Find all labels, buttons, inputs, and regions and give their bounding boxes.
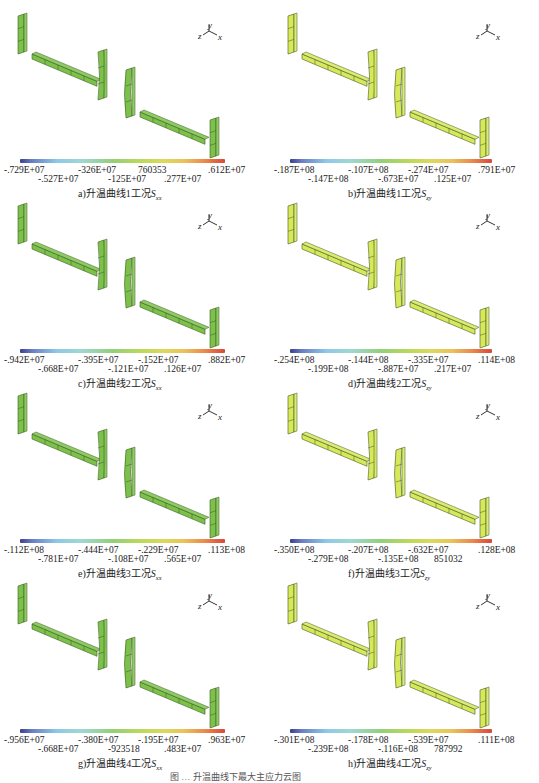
colorbar-tick-label: -.147E+08: [308, 174, 348, 184]
panel-d: y z x -.254E+08-.144E+08-.335E+07.114E+0…: [270, 190, 539, 380]
beam-member: [410, 490, 479, 524]
beam-member: [302, 622, 371, 656]
beam-member: [410, 300, 479, 334]
column-member: [395, 637, 406, 688]
beam-member: [140, 490, 209, 524]
fea-model-render: [0, 0, 269, 160]
column-member: [395, 67, 406, 118]
fea-model-render: [270, 0, 539, 160]
column-member: [98, 619, 107, 670]
colorbar-tick-label: -.121E+07: [108, 364, 148, 374]
beam-member: [32, 52, 101, 86]
colorbar-tick-label: -.116E+08: [378, 744, 418, 754]
column-member: [125, 447, 136, 498]
colorbar-tick-label: .113E+08: [208, 545, 245, 555]
column-member: [98, 49, 107, 100]
colorbar-tick-label: -.673E+07: [378, 174, 418, 184]
column-member: [480, 687, 489, 728]
column-member: [368, 49, 377, 100]
column-member: [210, 117, 219, 158]
column-member: [18, 583, 27, 624]
colorbar-tick-label: .791E+07: [478, 165, 515, 175]
column-member: [98, 429, 107, 480]
colorbar-tick-label: .114E+08: [478, 355, 515, 365]
colorbar-tick-label: -.668E+07: [38, 744, 78, 754]
column-member: [125, 637, 136, 688]
beam-member: [140, 680, 209, 714]
beam-member: [32, 242, 101, 276]
colorbar-tick-label: -.135E+08: [378, 554, 418, 564]
colorbar-tick-label: 787992: [434, 744, 463, 754]
colorbar-tick-label: -.781E+07: [38, 554, 78, 564]
panel-g: y z x -.956E+07-.380E+07-.195E+07.963E+0…: [0, 570, 269, 760]
colorbar-tick-label: .565E+07: [164, 554, 201, 564]
colorbar-tick-label: .217E+07: [434, 364, 471, 374]
fea-model-render: [0, 380, 269, 540]
column-member: [395, 257, 406, 308]
colorbar-tick-label: -.279E+08: [308, 554, 348, 564]
colorbar-tick-label: .612E+07: [208, 165, 245, 175]
panel-e: y z x -.112E+08-.444E+07-.229E+07.113E+0…: [0, 380, 269, 570]
panel-c: y z x -.942E+07-.395E+07-.152E+07.882E+0…: [0, 190, 269, 380]
colorbar-tick-label: .882E+07: [208, 355, 245, 365]
beam-member: [410, 110, 479, 144]
colorbar: [20, 729, 225, 733]
beam-member: [140, 110, 209, 144]
column-member: [368, 239, 377, 290]
colorbar: [290, 539, 492, 543]
colorbar-tick-label: .126E+07: [164, 364, 201, 374]
column-member: [288, 393, 297, 434]
column-member: [18, 393, 27, 434]
colorbar-tick-label: 851032: [434, 554, 463, 564]
column-member: [288, 203, 297, 244]
column-member: [395, 447, 406, 498]
beam-member: [410, 680, 479, 714]
fea-model-render: [0, 570, 269, 730]
column-member: [288, 13, 297, 54]
panel-a: y z x -.729E+07-326E+07760353.612E+07-.5…: [0, 0, 269, 190]
column-member: [18, 203, 27, 244]
panel-b: y z x -.187E+08-.107E+08-.274E+07.791E+0…: [270, 0, 539, 190]
colorbar-tick-label: -.239E+08: [308, 744, 348, 754]
fea-model-render: [270, 190, 539, 350]
beam-member: [32, 432, 101, 466]
colorbar: [20, 539, 225, 543]
colorbar: [290, 159, 492, 163]
fea-model-render: [270, 570, 539, 730]
column-member: [18, 13, 27, 54]
panel-h: y z x -.301E+08-.178E+08-.539E+07.111E+0…: [270, 570, 539, 760]
colorbar: [20, 349, 225, 353]
colorbar-tick-label: .277E+07: [164, 174, 201, 184]
figure-caption: 图 … 升温曲线下最大主应力云图: [170, 770, 301, 783]
beam-member: [302, 242, 371, 276]
column-member: [210, 307, 219, 348]
beam-member: [140, 300, 209, 334]
colorbar: [290, 729, 492, 733]
column-member: [368, 619, 377, 670]
column-member: [368, 429, 377, 480]
column-member: [125, 67, 136, 118]
colorbar-tick-label: .111E+08: [478, 735, 515, 745]
colorbar-tick-label: .125E+07: [434, 174, 471, 184]
colorbar-tick-label: -.527E+07: [38, 174, 78, 184]
colorbar-tick-label: .483E+07: [164, 744, 201, 754]
colorbar: [20, 159, 225, 163]
column-member: [210, 497, 219, 538]
colorbar-tick-label: -923518: [108, 744, 140, 754]
colorbar-tick-label: -.887E+07: [378, 364, 418, 374]
colorbar-tick-label: -125E+07: [108, 174, 146, 184]
beam-member: [302, 52, 371, 86]
fea-model-render: [0, 190, 269, 350]
colorbar-tick-label: .128E+08: [478, 545, 515, 555]
colorbar: [290, 349, 492, 353]
column-member: [125, 257, 136, 308]
beam-member: [32, 622, 101, 656]
colorbar-tick-label: -.199E+08: [308, 364, 348, 374]
colorbar-tick-label: -.108E+07: [108, 554, 148, 564]
column-member: [480, 307, 489, 348]
fea-model-render: [270, 380, 539, 540]
panel-f: y z x -.350E+08-.207E+08-.632E+07.128E+0…: [270, 380, 539, 570]
colorbar-tick-label: -.668E+07: [38, 364, 78, 374]
column-member: [480, 117, 489, 158]
beam-member: [302, 432, 371, 466]
